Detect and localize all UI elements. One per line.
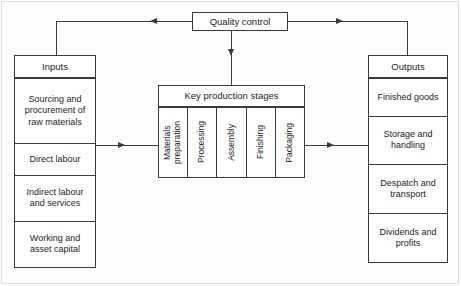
qc-to-stages-vertical-line	[231, 31, 232, 85]
outputs-item-label: Finished goods	[377, 92, 438, 103]
stage-label: Packaging	[285, 123, 295, 163]
inputs-item[interactable]: Indirect labour and services	[15, 176, 95, 222]
outputs-item[interactable]: Finished goods	[369, 79, 447, 117]
stage-label: Materials preparation	[163, 108, 183, 177]
stages-column-group: Materials preparation Processing Assembl…	[158, 107, 305, 178]
quality-control-label: Quality control	[210, 16, 271, 27]
inputs-header-box[interactable]: Inputs	[14, 55, 96, 78]
outputs-item-label: Storage and handling	[372, 129, 444, 152]
qc-to-inputs-arrowhead	[150, 18, 157, 24]
inputs-item-label: Indirect labour and services	[18, 187, 92, 210]
outputs-column: Finished goods Storage and handling Desp…	[368, 78, 448, 263]
qc-to-inputs-vertical-line	[56, 21, 57, 55]
stages-to-outputs-line	[305, 145, 368, 146]
stages-header-label: Key production stages	[184, 90, 278, 101]
stages-to-outputs-arrowhead	[327, 142, 334, 148]
stage-cell[interactable]: Finishing	[247, 108, 276, 177]
outputs-item-label: Dividends and profits	[372, 227, 444, 250]
stage-label: Finishing	[256, 125, 266, 159]
qc-to-outputs-vertical-line	[407, 21, 408, 55]
outputs-header-box[interactable]: Outputs	[368, 55, 448, 78]
stage-label: Processing	[197, 121, 207, 163]
inputs-to-stages-line	[96, 145, 158, 146]
production-system-diagram: Quality control Inputs Sourcing and proc…	[0, 0, 461, 286]
inputs-item-label: Working and asset capital	[18, 233, 92, 256]
stage-cell[interactable]: Assembly	[217, 108, 246, 177]
outputs-item[interactable]: Dividends and profits	[369, 214, 447, 262]
stage-label: Assembly	[227, 124, 237, 161]
qc-to-outputs-horizontal-line	[288, 21, 408, 22]
inputs-item[interactable]: Sourcing and procurement of raw material…	[15, 79, 95, 144]
qc-to-stages-arrowhead	[228, 49, 234, 56]
inputs-to-stages-arrowhead	[118, 142, 125, 148]
inputs-item[interactable]: Working and asset capital	[15, 222, 95, 267]
stages-header-box[interactable]: Key production stages	[158, 85, 305, 107]
outputs-item-label: Despatch and transport	[372, 178, 444, 201]
stage-cell[interactable]: Materials preparation	[159, 108, 188, 177]
inputs-column: Sourcing and procurement of raw material…	[14, 78, 96, 268]
inputs-item-label: Direct labour	[29, 154, 80, 165]
qc-to-outputs-arrowhead	[336, 18, 343, 24]
inputs-header-label: Inputs	[42, 61, 68, 72]
quality-control-box[interactable]: Quality control	[192, 12, 288, 31]
qc-to-inputs-horizontal-line	[56, 21, 192, 22]
outputs-item[interactable]: Despatch and transport	[369, 165, 447, 214]
stage-cell[interactable]: Processing	[188, 108, 217, 177]
stage-cell[interactable]: Packaging	[276, 108, 304, 177]
inputs-item[interactable]: Direct labour	[15, 144, 95, 176]
outputs-item[interactable]: Storage and handling	[369, 117, 447, 166]
outputs-header-label: Outputs	[391, 61, 424, 72]
inputs-item-label: Sourcing and procurement of raw material…	[18, 94, 92, 128]
